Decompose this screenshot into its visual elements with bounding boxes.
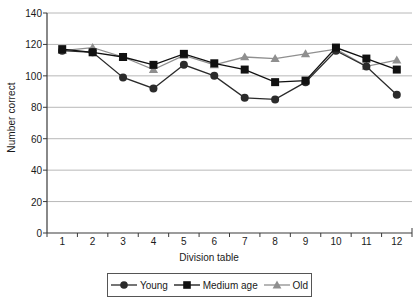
data-point-square [362, 55, 370, 63]
legend-item-old: Old [264, 279, 309, 291]
legend-label: Old [293, 280, 309, 291]
plot-background [47, 13, 412, 233]
chart-legend: YoungMedium ageOld [107, 273, 312, 297]
data-point-square [302, 77, 310, 85]
x-tick-label: 12 [391, 236, 402, 247]
x-tick-label: 11 [361, 236, 371, 247]
legend-marker-triangle-icon [264, 279, 290, 291]
data-point-square [119, 53, 127, 61]
x-tick-label: 3 [120, 236, 126, 247]
data-point-square [149, 61, 157, 69]
legend-marker-square-icon [174, 279, 200, 291]
data-point-circle [149, 84, 157, 92]
data-point-square [89, 48, 97, 56]
data-point-square [393, 66, 401, 74]
legend-item-young: Young [111, 279, 168, 291]
data-point-square [332, 44, 340, 52]
x-tick-label: 6 [212, 236, 218, 247]
x-tick-label: 9 [303, 236, 309, 247]
x-tick-label: 5 [181, 236, 187, 247]
data-point-square [210, 59, 218, 67]
x-tick-label: 7 [242, 236, 248, 247]
data-point-square [180, 50, 188, 58]
legend-marker-circle-icon [111, 279, 137, 291]
legend-label: Young [140, 280, 168, 291]
data-point-circle [210, 72, 218, 80]
x-tick-label: 8 [272, 236, 278, 247]
x-axis-title: Division table [0, 252, 418, 263]
legend-item-medium-age: Medium age [174, 279, 258, 291]
x-tick-label: 1 [59, 236, 65, 247]
x-axis-title-text: Division table [179, 252, 238, 263]
data-point-square [241, 66, 249, 74]
data-point-square [58, 45, 66, 53]
data-point-square [271, 78, 279, 86]
legend-label: Medium age [203, 280, 258, 291]
data-point-circle [241, 94, 249, 102]
x-tick-label: 10 [330, 236, 341, 247]
data-point-circle [393, 91, 401, 99]
data-point-circle [180, 61, 188, 69]
data-point-circle [271, 95, 279, 103]
data-point-circle [362, 62, 370, 70]
x-tick-label: 2 [90, 236, 96, 247]
data-point-circle [119, 73, 127, 81]
chart-figure: Number correct 020406080100120140 123456… [0, 0, 418, 305]
x-axis-tick-labels: 123456789101112 [0, 236, 418, 252]
x-tick-label: 4 [151, 236, 157, 247]
